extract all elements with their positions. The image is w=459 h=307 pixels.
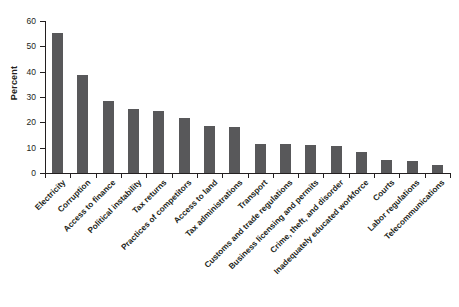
y-axis-tick-label: 10 xyxy=(2,144,36,153)
y-axis-tick-label: 20 xyxy=(2,118,36,127)
bar xyxy=(179,118,190,173)
bar-chart: Percent 0102030405060 ElectricityCorrupt… xyxy=(0,0,459,307)
bar xyxy=(407,161,418,173)
bar xyxy=(432,165,443,173)
x-axis-tick xyxy=(222,174,223,178)
bar xyxy=(305,145,316,173)
bar xyxy=(229,127,240,173)
y-axis-tick-label: 40 xyxy=(2,68,36,77)
y-axis-tick-label: 50 xyxy=(2,42,36,51)
x-axis-tick xyxy=(248,174,249,178)
x-axis-tick xyxy=(298,174,299,178)
y-axis-tick-label: 30 xyxy=(2,93,36,102)
x-axis-tick xyxy=(349,174,350,178)
x-axis-tick xyxy=(323,174,324,178)
bar xyxy=(331,146,342,173)
x-axis-label: Inadequately educated workforce xyxy=(273,178,371,276)
bar xyxy=(255,144,266,173)
x-axis-tick xyxy=(273,174,274,178)
plot-area xyxy=(45,21,450,173)
bar xyxy=(356,152,367,173)
x-axis-tick xyxy=(146,174,147,178)
x-axis-tick xyxy=(197,174,198,178)
y-axis-tick-label: 60 xyxy=(2,17,36,26)
bar xyxy=(153,111,164,173)
bar xyxy=(280,144,291,173)
bar-series xyxy=(45,21,450,173)
x-axis-tick xyxy=(96,174,97,178)
bar xyxy=(381,160,392,173)
x-axis-tick xyxy=(374,174,375,178)
bar xyxy=(52,33,63,173)
x-axis-tick xyxy=(425,174,426,178)
y-axis-tick-label: 0 xyxy=(2,169,36,178)
x-axis-tick xyxy=(399,174,400,178)
bar xyxy=(204,126,215,173)
bar xyxy=(77,75,88,173)
x-axis-tick xyxy=(450,174,451,178)
x-axis-tick xyxy=(70,174,71,178)
x-axis-tick xyxy=(172,174,173,178)
bar xyxy=(128,109,139,173)
x-axis-tick xyxy=(45,174,46,178)
y-axis-title: Percent xyxy=(9,43,19,123)
bar xyxy=(103,101,114,173)
x-axis-tick xyxy=(121,174,122,178)
source-note xyxy=(2,299,442,307)
